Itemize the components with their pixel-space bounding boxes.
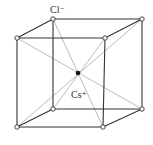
cl-atom-back-bottom-right (140, 107, 144, 111)
cs-atom-center (76, 71, 81, 76)
cl-anion-label: Cl⁻ (50, 4, 65, 15)
cl-atom-back-top-left (51, 17, 55, 21)
cs-cation-label: Cs⁺ (71, 89, 87, 100)
cl-atom-front-bottom-right (101, 125, 105, 129)
cl-atom-front-bottom-left (15, 125, 19, 129)
cl-atom-front-top-left (15, 36, 19, 40)
edge-bottom-right-depth (103, 109, 142, 127)
cl-atom-front-top-right (103, 36, 107, 40)
cscl-unit-cell-diagram: Cl⁻ Cs⁺ (0, 0, 153, 145)
cl-atom-back-top-right (140, 17, 144, 21)
cl-atom-back-bottom-left (51, 107, 55, 111)
edge-top-left-depth (17, 19, 53, 38)
